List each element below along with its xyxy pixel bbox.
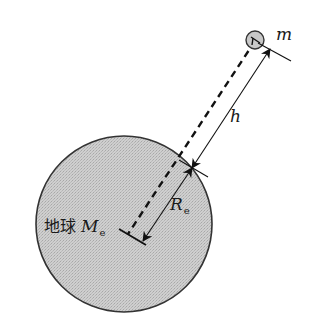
height-label: h [230,108,241,125]
earth-satellite-diagram [0,0,314,334]
earth-mass-label: 地球 Me [44,218,105,235]
satellite-center-tick-2 [252,38,253,45]
earth-mass-symbol: M [81,216,98,236]
satellite-mass-label: m [276,26,292,43]
earth-radius-symbol: R [170,194,183,214]
earth-mass-subscript: e [100,227,106,238]
earth-name: 地球 [44,217,76,236]
satellite-mass-symbol: m [276,24,292,44]
height-symbol: h [230,106,241,126]
satellite-reference-line [258,43,291,61]
earth-radius-label: Re [170,196,190,213]
earth-radius-subscript: e [184,205,190,216]
